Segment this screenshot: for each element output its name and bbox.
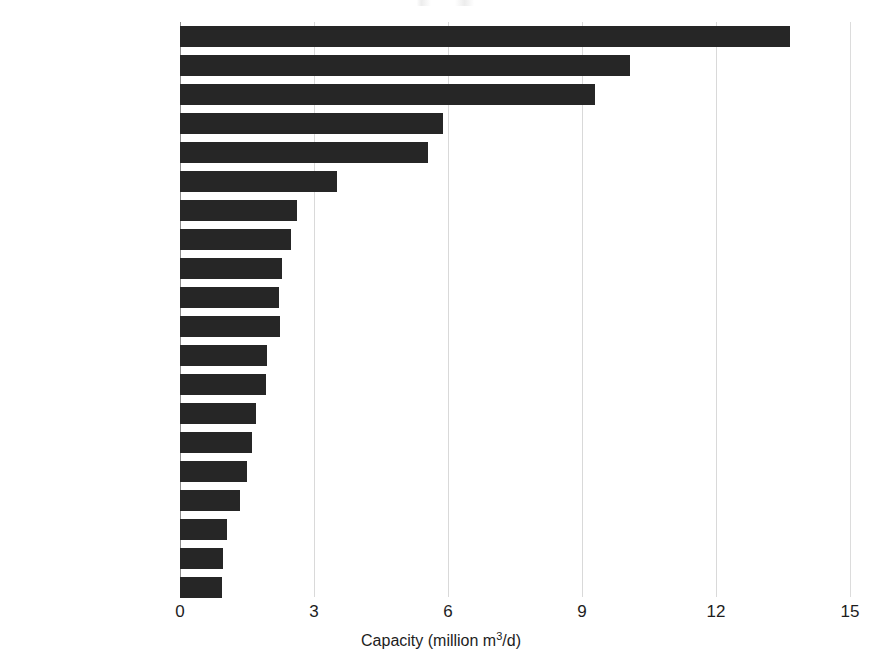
plot-area: [180, 22, 850, 597]
bar-row: [180, 225, 850, 254]
x-tick-label-0: 0: [150, 602, 210, 622]
bar-row: [180, 341, 850, 370]
bar: [180, 345, 267, 366]
bar: [180, 461, 247, 482]
bar: [180, 200, 297, 221]
x-axis-title-tail: /d): [502, 632, 521, 649]
bar-row: [180, 138, 850, 167]
bar-row: [180, 167, 850, 196]
x-tick-label-6: 6: [418, 602, 478, 622]
bar: [180, 374, 266, 395]
bar-row: [180, 283, 850, 312]
bar: [180, 548, 223, 569]
bar: [180, 171, 337, 192]
bar: [180, 258, 282, 279]
bar: [180, 577, 222, 598]
bar-row: [180, 51, 850, 80]
x-tick-label-3: 3: [284, 602, 344, 622]
bar-row: [180, 573, 850, 602]
bar-row: [180, 399, 850, 428]
bar: [180, 229, 291, 250]
bar: [180, 316, 280, 337]
bar-series: [180, 22, 850, 597]
bar: [180, 287, 279, 308]
x-tick-label-12: 12: [686, 602, 746, 622]
bar-row: [180, 312, 850, 341]
bar-row: [180, 109, 850, 138]
bar: [180, 113, 443, 134]
cropped-title-remnant: [395, 0, 515, 6]
bar-row: [180, 80, 850, 109]
bar: [180, 432, 252, 453]
bar: [180, 490, 240, 511]
bar: [180, 84, 595, 105]
x-tick-label-9: 9: [552, 602, 612, 622]
bar-row: [180, 515, 850, 544]
bar-row: [180, 457, 850, 486]
bar-row: [180, 22, 850, 51]
x-tick-label-15: 15: [820, 602, 880, 622]
gridline-15: [850, 22, 851, 597]
bar-row: [180, 196, 850, 225]
bar: [180, 26, 790, 47]
bar: [180, 403, 256, 424]
bar: [180, 142, 428, 163]
bar: [180, 55, 630, 76]
x-axis-title: Capacity (million m3/d): [0, 632, 882, 650]
bar-chart: Saudi ArabiaU.S.A.United Arab EmiratesCh…: [0, 0, 882, 665]
bar-row: [180, 428, 850, 457]
bar: [180, 519, 227, 540]
x-axis-title-main: Capacity (million m: [361, 632, 496, 649]
bar-row: [180, 254, 850, 283]
bar-row: [180, 544, 850, 573]
bar-row: [180, 486, 850, 515]
bar-row: [180, 370, 850, 399]
